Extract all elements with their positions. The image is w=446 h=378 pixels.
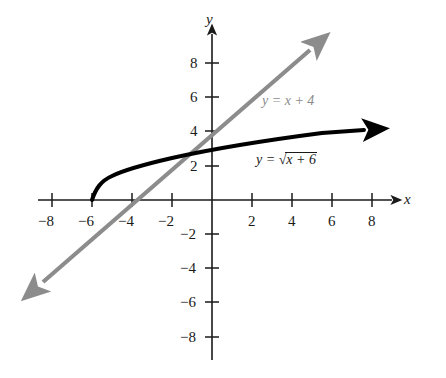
y-tick-label-minus-6: −6 — [180, 295, 196, 310]
y-tick-label-2: 2 — [190, 159, 198, 174]
radical-group: √x + 6 — [279, 152, 317, 167]
x-tick-label-minus-4: −4 — [118, 214, 134, 229]
x-tick-label-6: 6 — [328, 214, 336, 229]
y-tick-label-minus-4: −4 — [180, 261, 196, 276]
x-tick-label-8: 8 — [368, 214, 376, 229]
y-axis-label: y — [206, 12, 213, 27]
x-tick-label-4: 4 — [288, 214, 296, 229]
y-tick-label-6: 6 — [190, 90, 198, 105]
annotation-curve-equation: y = √x + 6 — [256, 152, 317, 167]
y-tick-label-8: 8 — [190, 56, 198, 71]
x-tick-label-minus-6: −6 — [78, 214, 94, 229]
x-tick-label-minus-8: −8 — [38, 214, 54, 229]
graph-figure: −8 −6 −4 −2 2 4 6 8 8 6 4 2 −2 −4 −6 −8 … — [0, 0, 446, 378]
x-tick-label-minus-2: −2 — [158, 214, 174, 229]
x-axis-label: x — [404, 192, 411, 207]
radicand-expression: x + 6 — [285, 152, 317, 167]
annotation-line-equation: y = x + 4 — [262, 94, 314, 108]
y-tick-label-4: 4 — [190, 124, 198, 139]
y-tick-label-minus-2: −2 — [180, 227, 196, 242]
curve-equation-prefix: y = — [256, 152, 279, 167]
x-tick-label-2: 2 — [248, 214, 256, 229]
coordinate-plane-svg — [0, 0, 446, 378]
y-tick-label-minus-8: −8 — [180, 330, 196, 345]
curve-y-equals-sqrt-x-plus-6 — [92, 130, 364, 200]
